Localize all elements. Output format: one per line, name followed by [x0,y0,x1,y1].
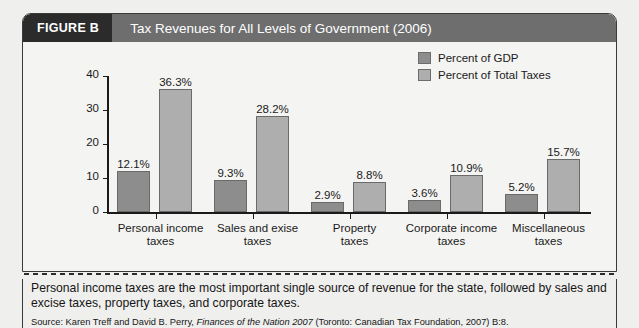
y-axis-tick [103,76,108,77]
source-line: Source: Karen Treff and David B. Perry, … [31,316,610,328]
bar-gdp: 9.3% [214,180,247,212]
bar-value-label: 3.6% [411,187,437,199]
bar-total-taxes: 10.9% [450,175,483,212]
y-axis-tick-label: 30 [67,102,99,114]
x-axis-tick [447,214,448,219]
bar-value-label: 5.2% [508,181,534,193]
y-axis-tick-label: 0 [67,204,99,216]
x-axis-category-label: Miscellaneoustaxes [497,222,601,248]
bar-value-label: 36.3% [159,76,192,88]
x-axis-category-label: Propertytaxes [303,222,407,248]
source-prefix: Source: Karen Treff and David B. Perry, [31,317,197,327]
bar-value-label: 8.8% [356,169,382,181]
bar-gdp: 3.6% [408,200,441,212]
bar-value-label: 2.9% [314,189,340,201]
y-axis-tick-label: 20 [67,136,99,148]
category-label-line: Property [303,222,407,235]
y-axis-tick [103,212,108,213]
bar-value-label: 28.2% [256,103,289,115]
bar-value-label: 9.3% [217,167,243,179]
source-work-title: Finances of the Nation 2007 [197,317,313,327]
caption-text: Personal income taxes are the most impor… [31,281,610,311]
x-axis-tick [350,214,351,219]
category-label-line: taxes [400,235,504,248]
category-label-line: taxes [206,235,310,248]
y-axis-tick-label: 40 [67,68,99,80]
bar-total-taxes: 8.8% [353,182,386,212]
bar-value-label: 12.1% [117,158,150,170]
figure-title: Tax Revenues for All Levels of Governmen… [112,14,432,42]
bar-total-taxes: 15.7% [547,159,580,212]
source-suffix: (Toronto: Canadian Tax Foundation, 2007)… [313,317,509,327]
bar-value-label: 10.9% [450,162,483,174]
bar-value-label: 15.7% [547,146,580,158]
figure-header: FIGURE B Tax Revenues for All Levels of … [23,14,616,42]
bar-gdp: 12.1% [117,171,150,212]
bar-total-taxes: 36.3% [159,89,192,212]
dotted-divider [22,272,617,276]
x-axis-tick [156,214,157,219]
caption-block: Personal income taxes are the most impor… [22,279,617,328]
figure-tag-label: FIGURE B [23,14,112,42]
x-axis-category-label: Corporate incometaxes [400,222,504,248]
x-axis-category-label: Sales and exisetaxes [206,222,310,248]
y-axis-tick-label: 10 [67,170,99,182]
category-label-line: taxes [497,235,601,248]
x-axis-tick [253,214,254,219]
chart-body: Percent of GDP Percent of Total Taxes 01… [23,42,616,272]
category-label-line: Corporate income [400,222,504,235]
x-axis-category-label: Personal incometaxes [109,222,213,248]
bar-total-taxes: 28.2% [256,116,289,212]
category-label-line: Personal income [109,222,213,235]
y-axis-tick [103,178,108,179]
bar-gdp: 5.2% [505,194,538,212]
category-label-line: Sales and exise [206,222,310,235]
category-label-line: taxes [109,235,213,248]
x-axis-tick [544,214,545,219]
bar-gdp: 2.9% [311,202,344,212]
category-label-line: Miscellaneous [497,222,601,235]
category-label-line: taxes [303,235,407,248]
figure-card: FIGURE B Tax Revenues for All Levels of … [22,13,617,272]
plot-area: 010203040 12.1%36.3%9.3%28.2%2.9%8.8%3.6… [23,42,617,272]
y-axis-tick [103,110,108,111]
y-axis-tick [103,144,108,145]
